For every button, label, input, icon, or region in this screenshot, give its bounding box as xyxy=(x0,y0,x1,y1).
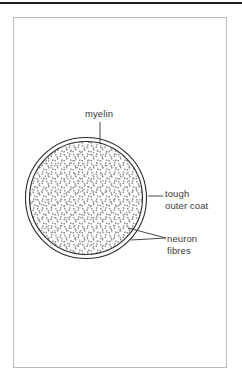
label-neuron-fibres: neuron fibres xyxy=(167,233,197,256)
figure-page: myelin tough outer coat neuron fibres xyxy=(0,0,242,383)
label-neuron-fibres-line1: neuron xyxy=(167,233,197,245)
neuron-fibres-leader-wedge xyxy=(128,228,166,240)
neuron-fibre-stipple xyxy=(30,142,142,254)
label-myelin: myelin xyxy=(85,108,113,120)
label-neuron-fibres-line2: fibres xyxy=(167,245,197,257)
label-tough-outer-coat-line2: outer coat xyxy=(165,200,208,212)
label-tough-outer-coat-line1: tough xyxy=(165,188,208,200)
label-tough-outer-coat: tough outer coat xyxy=(165,188,208,211)
